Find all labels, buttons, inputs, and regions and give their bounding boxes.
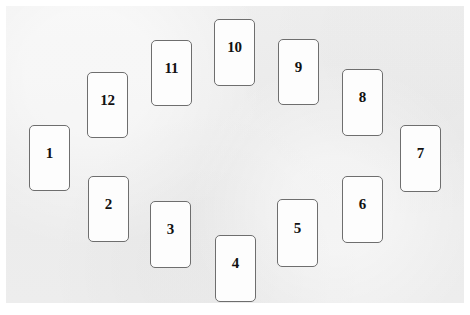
- card-label: 12: [100, 93, 115, 108]
- card-label: 6: [359, 197, 366, 212]
- card-2[interactable]: 2: [88, 176, 129, 242]
- card-7[interactable]: 7: [400, 125, 441, 192]
- card-board: 123456789101112: [6, 6, 464, 303]
- card-label: 2: [105, 197, 112, 212]
- card-label: 11: [165, 61, 179, 76]
- card-11[interactable]: 11: [151, 40, 192, 106]
- card-5[interactable]: 5: [277, 199, 318, 267]
- card-3[interactable]: 3: [150, 201, 191, 268]
- card-9[interactable]: 9: [278, 39, 319, 105]
- card-label: 4: [232, 256, 239, 271]
- card-8[interactable]: 8: [342, 69, 383, 136]
- card-label: 7: [417, 146, 424, 161]
- card-label: 1: [46, 146, 53, 161]
- card-label: 9: [295, 60, 302, 75]
- card-1[interactable]: 1: [29, 125, 70, 191]
- card-10[interactable]: 10: [214, 19, 255, 86]
- card-label: 3: [167, 222, 174, 237]
- card-label: 10: [227, 40, 242, 55]
- card-12[interactable]: 12: [87, 72, 128, 138]
- screenshot-stage: 123456789101112: [0, 0, 470, 315]
- card-label: 5: [294, 221, 301, 236]
- card-label: 8: [359, 90, 366, 105]
- card-4[interactable]: 4: [215, 235, 256, 302]
- card-6[interactable]: 6: [342, 176, 383, 243]
